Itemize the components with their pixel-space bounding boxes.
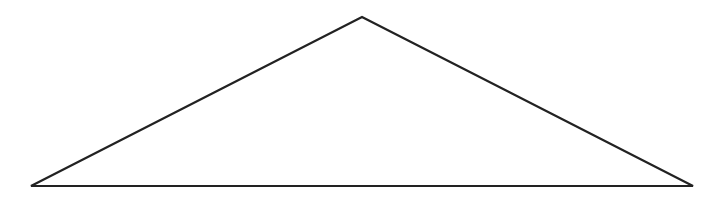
triangle-shape [31,17,693,186]
diagram-canvas [0,0,721,202]
